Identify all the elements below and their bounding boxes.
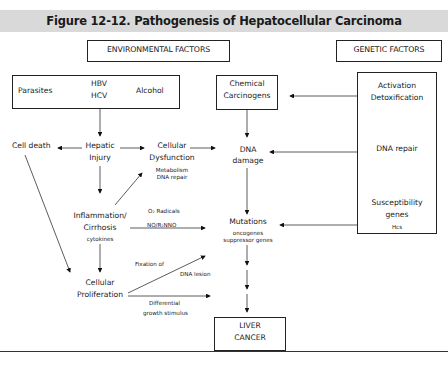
- bottom-rule: [0, 351, 448, 352]
- diagram-arrows: [0, 0, 448, 367]
